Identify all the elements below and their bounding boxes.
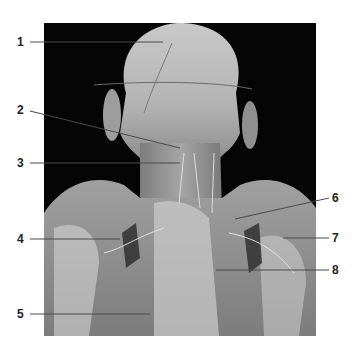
- callout-label-4: 4: [17, 233, 24, 245]
- callout-label-6: 6: [332, 192, 339, 204]
- callout-label-2: 2: [17, 104, 24, 116]
- anatomical-figure: 1 2 3 4 5 6 7 8: [0, 0, 358, 353]
- callout-label-3: 3: [17, 157, 24, 169]
- callout-label-8: 8: [332, 264, 339, 276]
- callout-line-2: [30, 111, 180, 148]
- callout-label-5: 5: [17, 308, 24, 320]
- callout-line-6: [235, 198, 329, 219]
- callout-label-1: 1: [17, 36, 24, 48]
- callout-lines: [0, 0, 358, 353]
- callout-label-7: 7: [332, 232, 339, 244]
